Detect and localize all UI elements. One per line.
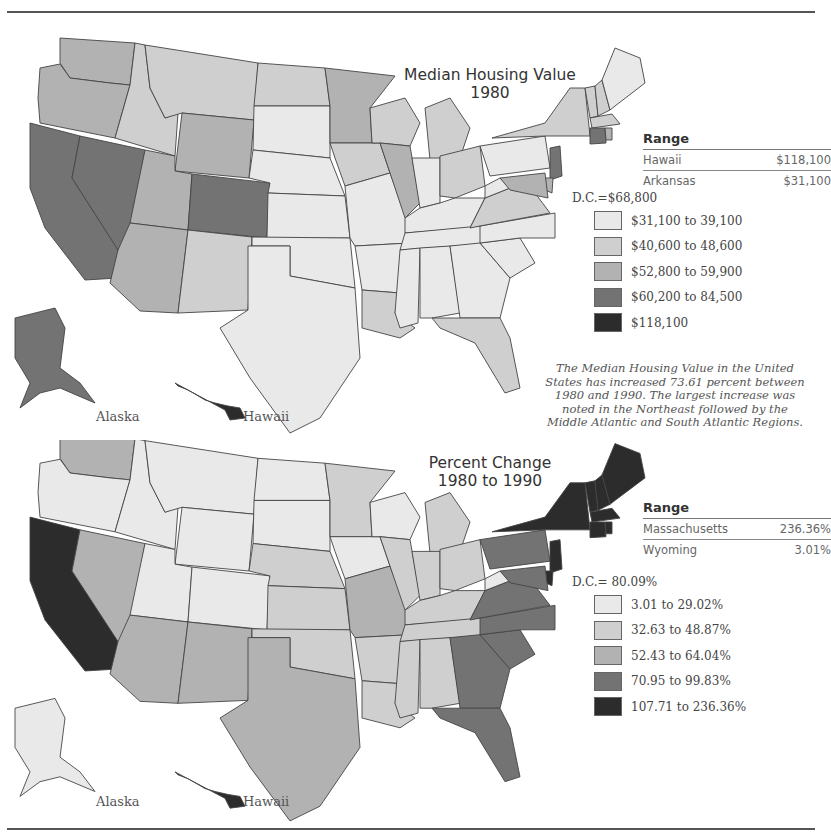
legend-item: $118,100	[594, 310, 742, 336]
state-ri	[605, 522, 612, 534]
top-divider	[7, 11, 815, 13]
legend-label: 52.43 to 64.04%	[631, 649, 731, 663]
range-row-max: Massachusetts 236.36%	[643, 519, 831, 540]
state-mt	[145, 441, 258, 515]
median-housing-value-map-panel: Median Housing Value 1980 Range Hawaii $…	[0, 14, 815, 438]
state-co	[188, 174, 270, 238]
range-table: Range Massachusetts 236.36% Wyoming 3.01…	[643, 500, 831, 560]
state-sd	[253, 500, 330, 551]
map-title: Percent Change 1980 to 1990	[395, 454, 585, 490]
state-hi	[175, 772, 245, 808]
range-value: $118,100	[776, 153, 831, 167]
range-value: $31,100	[783, 174, 831, 188]
dc-value: D.C.=$68,800	[572, 191, 657, 205]
state-me	[602, 444, 645, 505]
state-ak	[15, 698, 95, 796]
range-state: Massachusetts	[643, 522, 728, 536]
legend-item: 52.43 to 64.04%	[594, 643, 746, 669]
state-wi	[370, 98, 420, 146]
state-sd	[253, 106, 330, 158]
legend-swatch	[594, 262, 622, 281]
state-pa	[480, 530, 550, 569]
legend-swatch	[594, 646, 622, 665]
legend-label: $60,200 to 84,500	[631, 290, 742, 304]
legend-swatch	[594, 313, 622, 332]
state-fl	[432, 708, 520, 782]
legend-item: 32.63 to 48.87%	[594, 618, 746, 644]
state-ks	[267, 586, 350, 630]
map-title-line2: 1980	[395, 84, 585, 102]
legend-swatch	[594, 621, 622, 640]
legend-item: 3.01 to 29.02%	[594, 592, 746, 618]
legend-item: $60,200 to 84,500	[594, 285, 742, 311]
state-ct	[590, 522, 606, 538]
map-title-line1: Median Housing Value	[395, 66, 585, 84]
legend-label: $118,100	[631, 316, 688, 330]
legend-label: 70.95 to 99.83%	[631, 674, 731, 688]
legend-label: $52,800 to 59,900	[631, 265, 742, 279]
state-nj	[550, 540, 562, 573]
legend-label: 32.63 to 48.87%	[631, 623, 731, 637]
state-wy	[175, 507, 254, 571]
state-nj	[550, 146, 562, 180]
map-title-line1: Percent Change	[395, 454, 585, 472]
legend-label: 3.01 to 29.02%	[631, 598, 723, 612]
state-ks	[267, 193, 350, 238]
range-table: Range Hawaii $118,100 Arkansas $31,100	[643, 131, 831, 191]
map-title: Median Housing Value 1980	[395, 66, 585, 102]
range-state: Arkansas	[643, 174, 695, 188]
legend: 3.01 to 29.02% 32.63 to 48.87% 52.43 to …	[594, 592, 746, 720]
state-nd	[254, 63, 330, 106]
legend-label: 107.71 to 236.36%	[631, 700, 746, 714]
range-header: Range	[643, 500, 831, 519]
legend-label: $40,600 to 48,600	[631, 239, 742, 253]
state-wy	[175, 113, 254, 178]
range-value: 3.01%	[794, 543, 831, 557]
map-title-line2: 1980 to 1990	[395, 472, 585, 490]
legend-swatch	[594, 211, 622, 230]
legend-item: $31,100 to 39,100	[594, 208, 742, 234]
state-co	[188, 567, 270, 630]
state-fl	[432, 318, 520, 393]
legend: $31,100 to 39,100 $40,600 to 48,600 $52,…	[594, 208, 742, 336]
hawaii-label: Hawaii	[243, 794, 289, 809]
state-ct	[590, 128, 606, 144]
legend-item: 70.95 to 99.83%	[594, 669, 746, 695]
legend-label: $31,100 to 39,100	[631, 214, 742, 228]
state-pa	[480, 136, 550, 176]
state-mt	[145, 45, 258, 120]
legend-swatch	[594, 697, 622, 716]
range-state: Hawaii	[643, 153, 682, 167]
state-ny	[492, 483, 590, 532]
state-nd	[254, 458, 330, 500]
legend-item: $52,800 to 59,900	[594, 259, 742, 285]
range-value: 236.36%	[780, 522, 831, 536]
legend-swatch	[594, 672, 622, 691]
legend-item: 107.71 to 236.36%	[594, 694, 746, 720]
legend-swatch	[594, 288, 622, 307]
bottom-divider	[7, 828, 815, 830]
alaska-label: Alaska	[96, 409, 140, 424]
state-ri	[605, 128, 612, 140]
range-row-min: Wyoming 3.01%	[643, 540, 831, 560]
summary-note: The Median Housing Value in the United S…	[540, 362, 810, 430]
range-row-max: Hawaii $118,100	[643, 150, 831, 171]
state-nm	[178, 230, 252, 313]
range-state: Wyoming	[643, 543, 697, 557]
state-wi	[370, 493, 420, 540]
alaska-label: Alaska	[96, 794, 140, 809]
state-nm	[178, 622, 252, 703]
state-ak	[15, 308, 95, 408]
range-header: Range	[643, 131, 831, 150]
hawaii-label: Hawaii	[243, 409, 289, 424]
legend-swatch	[594, 595, 622, 614]
legend-swatch	[594, 237, 622, 256]
state-hi	[175, 383, 245, 420]
legend-item: $40,600 to 48,600	[594, 234, 742, 260]
dc-value: D.C.= 80.09%	[572, 575, 657, 589]
range-row-min: Arkansas $31,100	[643, 171, 831, 191]
percent-change-map-panel: Percent Change 1980 to 1990 Range Massac…	[0, 440, 815, 828]
state-me	[602, 48, 645, 110]
